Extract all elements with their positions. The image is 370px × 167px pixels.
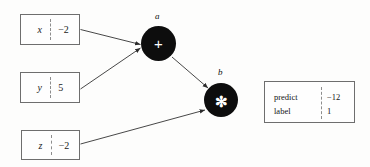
variable-name-y: y — [37, 82, 48, 93]
variable-value-x: −2 — [51, 24, 69, 35]
result-box-inner: predict −12 label 1 — [265, 82, 354, 122]
plus-operator-node: + — [141, 26, 176, 61]
node-label-b: b — [218, 67, 223, 77]
multiply-icon: ✻ — [215, 94, 228, 109]
node-label-a: a — [155, 11, 160, 21]
variable-name-z: z — [38, 140, 49, 151]
multiply-operator-node: ✻ — [204, 83, 238, 117]
variable-value-y: 5 — [51, 82, 63, 93]
edge-a-to-b — [172, 57, 208, 88]
variable-name-x: x — [37, 24, 48, 35]
result-key-predict: predict — [274, 90, 298, 104]
result-row-label: label 1 — [265, 104, 354, 118]
variable-value-z: −2 — [52, 140, 70, 151]
result-value-label: 1 — [327, 104, 331, 118]
edge-x-to-a — [81, 30, 141, 45]
plus-icon: + — [154, 36, 163, 51]
result-row-predict: predict −12 — [265, 90, 354, 104]
variable-box-y: y 5 — [20, 72, 80, 103]
variable-box-z-inner: z −2 — [22, 131, 79, 159]
result-value-predict: −12 — [327, 90, 340, 104]
variable-box-x-inner: x −2 — [21, 15, 79, 44]
diagram-canvas: x −2 y 5 z −2 a + b ✻ predict — [0, 0, 370, 167]
edge-z-to-b — [81, 110, 206, 144]
variable-box-x: x −2 — [20, 14, 80, 45]
variable-box-y-inner: y 5 — [21, 73, 79, 102]
edge-y-to-a — [81, 48, 141, 89]
variable-box-z: z −2 — [21, 130, 80, 160]
result-key-label: label — [274, 104, 291, 118]
result-box: predict −12 label 1 — [264, 81, 355, 123]
